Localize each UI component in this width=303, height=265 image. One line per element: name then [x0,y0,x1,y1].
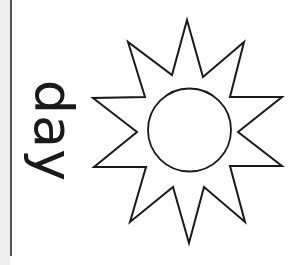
sun-icon [0,0,303,265]
worksheet-card: day [0,0,303,265]
sun-disc-outline [148,89,231,172]
